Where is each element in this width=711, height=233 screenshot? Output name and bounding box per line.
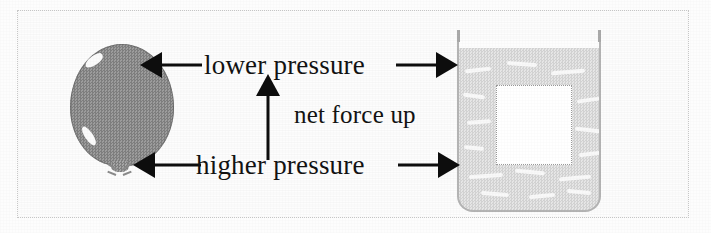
label-lower-pressure: lower pressure xyxy=(204,50,365,81)
arrow-shaft xyxy=(160,64,202,67)
label-net-force-up: net force up xyxy=(294,101,416,129)
arrowhead-right-icon xyxy=(438,152,460,178)
arrow-higher-pressure-right xyxy=(398,152,460,178)
displaced-volume-void xyxy=(496,85,572,165)
arrow-higher-pressure-left xyxy=(133,152,201,178)
arrow-lower-pressure-left xyxy=(140,52,202,78)
arrowhead-left-icon xyxy=(133,152,155,178)
arrow-shaft xyxy=(153,164,201,167)
water-container xyxy=(456,30,602,212)
arrow-shaft xyxy=(398,164,442,167)
arrow-shaft xyxy=(396,64,440,67)
water-body xyxy=(457,42,601,212)
label-higher-pressure: higher pressure xyxy=(196,150,365,181)
arrowhead-right-icon xyxy=(436,52,458,78)
buoyancy-pressure-diagram: lower pressure higher pressure net force… xyxy=(0,0,711,233)
arrow-net-force-up xyxy=(255,74,281,160)
arrow-lower-pressure-right xyxy=(396,52,458,78)
arrowhead-left-icon xyxy=(140,52,162,78)
